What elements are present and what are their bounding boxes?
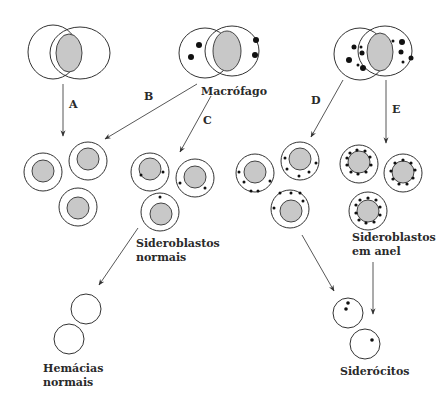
- ring-sideroblasts-label-line1: Sideroblastos: [352, 231, 436, 244]
- sideroblasts-increased: [236, 142, 319, 228]
- arrow-to-siderocytes-from-increased: [302, 235, 334, 291]
- normal-rbc-label-line1: Hemácias: [43, 362, 103, 375]
- macrophage-overload: [334, 26, 414, 80]
- macrophage-normal: [179, 26, 259, 78]
- macrophage-empty: [28, 25, 110, 79]
- siderocytes-label: Siderócitos: [340, 365, 409, 378]
- arrow-to-normal-rbc: [99, 228, 138, 285]
- sideroblasts-ring: [340, 145, 422, 230]
- sideroblast-diagram: Macrófago A B C D E: [0, 0, 446, 399]
- normal-sideroblasts-label-line1: Sideroblastos: [136, 237, 220, 250]
- ring-sideroblasts-label-line2: em anel: [352, 245, 401, 258]
- path-b-label: B: [144, 90, 153, 103]
- normal-rbc-label-line2: normais: [43, 376, 93, 389]
- path-e-label: E: [392, 103, 400, 116]
- path-a-label: A: [68, 98, 78, 111]
- path-c-label: C: [203, 114, 212, 127]
- erythroblasts-no-iron: [24, 142, 107, 226]
- normal-rbc: [54, 294, 101, 354]
- path-d-label: D: [311, 94, 321, 107]
- sideroblasts-normal: [131, 153, 214, 231]
- arrow-d: [311, 80, 343, 137]
- normal-sideroblasts-label-line2: normais: [136, 251, 186, 264]
